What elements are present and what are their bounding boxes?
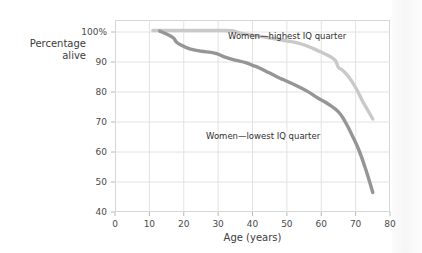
y-tick-label: 70 xyxy=(79,118,107,127)
x-tick-label: 60 xyxy=(308,220,334,229)
x-tick-label: 80 xyxy=(377,220,403,229)
y-axis-title-line-2: alive xyxy=(8,50,86,62)
x-tick-label: 0 xyxy=(102,220,128,229)
series-annotation-highest-iq: Women—highest IQ quarter xyxy=(228,31,346,41)
y-tick-label: 50 xyxy=(79,178,107,187)
series-line-lowest-iq xyxy=(160,31,373,192)
series-line-highest-iq xyxy=(153,30,373,119)
chart-figure: Percentage alive 405060708090100% 010203… xyxy=(0,0,422,253)
gridlines xyxy=(115,20,390,212)
y-tick-label: 60 xyxy=(79,148,107,157)
y-axis-title-line-1: Percentage xyxy=(8,38,86,50)
x-axis-title: Age (years) xyxy=(115,232,390,243)
series-annotation-lowest-iq: Women—lowest IQ quarter xyxy=(206,131,320,141)
x-tick-label: 20 xyxy=(171,220,197,229)
x-tick-label: 10 xyxy=(136,220,162,229)
x-tick-label: 70 xyxy=(343,220,369,229)
y-tick-label: 40 xyxy=(79,208,107,217)
x-tick-label: 50 xyxy=(274,220,300,229)
y-tick-label: 80 xyxy=(79,88,107,97)
series-lines xyxy=(153,30,373,192)
x-tick-label: 30 xyxy=(205,220,231,229)
y-axis-title: Percentage alive xyxy=(8,38,86,62)
y-tick-label: 100% xyxy=(79,28,107,37)
x-tick-label: 40 xyxy=(240,220,266,229)
y-tick-label: 90 xyxy=(79,58,107,67)
